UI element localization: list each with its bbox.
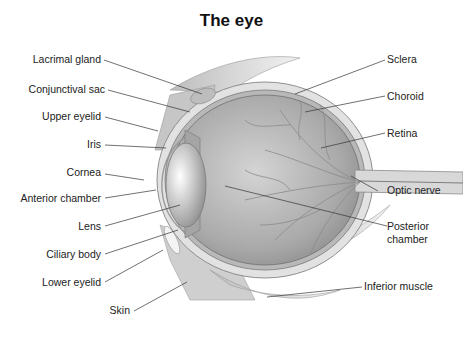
label-lens: Lens — [78, 220, 101, 233]
label-choroid: Choroid — [387, 90, 424, 103]
label-iris: Iris — [87, 138, 101, 151]
label-ciliary-body: Ciliary body — [46, 248, 101, 261]
label-optic-nerve: Optic nerve — [387, 184, 441, 197]
label-anterior-chamber: Anterior chamber — [20, 192, 101, 205]
label-lower-eyelid: Lower eyelid — [42, 276, 101, 289]
label-conjunctival-sac: Conjunctival sac — [29, 83, 105, 96]
label-retina: Retina — [387, 127, 417, 140]
label-posterior-chamber: Posterior chamber — [387, 220, 442, 246]
label-skin: Skin — [110, 304, 130, 317]
label-sclera: Sclera — [387, 53, 417, 66]
label-upper-eyelid: Upper eyelid — [42, 110, 101, 123]
label-inferior-muscle: Inferior muscle — [364, 280, 433, 293]
label-cornea: Cornea — [67, 166, 101, 179]
label-lacrimal-gland: Lacrimal gland — [33, 53, 101, 66]
